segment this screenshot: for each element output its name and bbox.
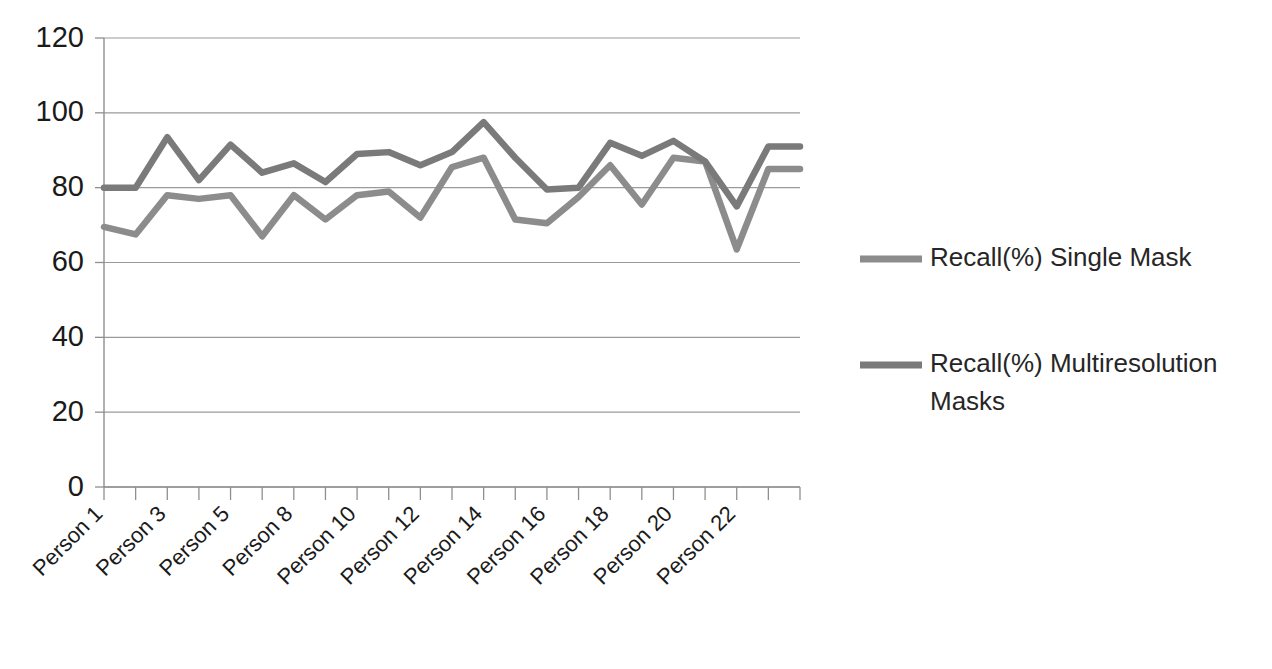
gridlines: [104, 38, 800, 487]
y-tick-labels: 020406080100120: [36, 21, 84, 502]
chart-legend: Recall(%) Single MaskRecall(%) Multireso…: [860, 242, 1218, 416]
data-series: [104, 122, 800, 249]
y-tick-label: 0: [68, 470, 84, 502]
legend-label: Masks: [930, 386, 1005, 416]
legend-label: Recall(%) Single Mask: [930, 242, 1193, 272]
y-tick-label: 80: [52, 170, 84, 202]
x-axis: [104, 487, 800, 500]
y-tick-label: 120: [36, 21, 84, 53]
y-tick-label: 60: [52, 245, 84, 277]
chart-container: 020406080100120 Person 1Person 3Person 5…: [0, 0, 1272, 669]
x-tick-labels: Person 1Person 3Person 5Person 8Person 1…: [28, 501, 741, 590]
y-axis: [95, 38, 104, 487]
y-tick-label: 100: [36, 95, 84, 127]
y-tick-label: 40: [52, 320, 84, 352]
legend-label: Recall(%) Multiresolution: [930, 348, 1218, 378]
y-tick-label: 20: [52, 395, 84, 427]
line-chart: 020406080100120 Person 1Person 3Person 5…: [0, 0, 1272, 669]
